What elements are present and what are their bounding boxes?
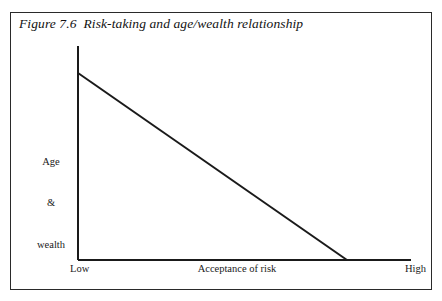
y-axis-label: Age & wealth xyxy=(25,127,77,279)
y-axis-label-line-1: Age xyxy=(25,155,77,169)
y-axis-label-line-3: wealth xyxy=(25,238,77,252)
y-axis-label-line-2: & xyxy=(25,196,77,210)
x-axis-label: Acceptance of risk xyxy=(177,263,297,274)
figure-frame: Figure 7.6 Risk-taking and age/wealth re… xyxy=(10,12,432,290)
x-axis-tick-label-high: High xyxy=(394,263,426,274)
x-axis-tick-label-low: Low xyxy=(70,263,89,274)
data-line-age-wealth xyxy=(78,73,347,260)
plot-area: Age & wealth Low Acceptance of risk High xyxy=(11,13,433,291)
